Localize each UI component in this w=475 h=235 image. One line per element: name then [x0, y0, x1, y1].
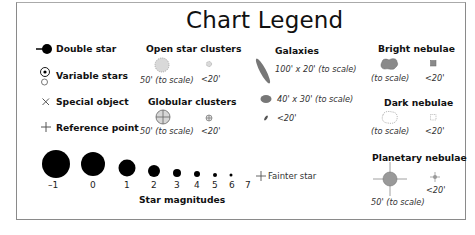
open-cluster-small-icon	[205, 60, 213, 68]
galaxy-medium-icon	[259, 94, 273, 104]
planetary-nebula-small-label: <20'	[426, 185, 446, 195]
planetary-nebula-scale-label: 50' (to scale)	[371, 197, 425, 207]
globular-cluster-scale-label: 50' (to scale)	[140, 126, 194, 136]
bright-nebula-small-icon	[430, 60, 437, 67]
globular-cluster-large-icon	[155, 109, 171, 125]
magnitude-label: 0	[90, 180, 96, 190]
magnitude-label: –1	[48, 180, 58, 190]
bright-nebula-large-icon	[380, 57, 400, 71]
double-star-label: Double star	[56, 43, 116, 54]
variable-stars-label: Variable stars	[56, 70, 128, 81]
planetary-nebula-large-icon	[373, 162, 407, 196]
dark-nebulae-heading: Dark nebulae	[384, 97, 453, 108]
magnitude-label: 3	[174, 180, 180, 190]
open-cluster-small-label: <20'	[201, 74, 221, 84]
magnitude-label: 7	[245, 180, 251, 190]
magnitude-dots	[40, 148, 240, 180]
magnitude-dot-icon	[42, 150, 70, 178]
magnitudes-heading: Star magnitudes	[139, 194, 225, 205]
magnitude-dot-icon	[148, 165, 160, 177]
globular-cluster-small-icon	[205, 114, 213, 122]
magnitude-labels: –1 0 1 2 3 4 5 6 7	[42, 180, 272, 192]
magnitude-label: 5	[212, 180, 218, 190]
galaxy-small-label: <20'	[277, 113, 297, 123]
magnitude-dot-icon	[173, 169, 181, 177]
magnitude-label: 2	[151, 180, 157, 190]
magnitude-label: 1	[124, 180, 130, 190]
page-title: Chart Legend	[186, 7, 343, 33]
special-object-label: Special object	[56, 96, 129, 107]
magnitude-dot-icon	[194, 171, 200, 177]
galaxies-heading: Galaxies	[275, 45, 319, 56]
open-clusters-heading: Open star clusters	[146, 43, 241, 54]
galaxy-small-icon	[262, 114, 270, 122]
magnitude-label: 4	[194, 180, 200, 190]
magnitude-dot-icon	[213, 173, 217, 177]
double-star-icon	[36, 42, 56, 56]
bright-nebula-scale-label: (to scale)	[371, 73, 409, 83]
galaxy-large-icon	[254, 56, 272, 86]
special-object-icon	[42, 98, 50, 106]
variable-star-icon	[38, 67, 52, 89]
open-cluster-scale-label: 50' (to scale)	[140, 75, 194, 85]
dark-nebula-large-icon	[380, 110, 400, 126]
globular-clusters-heading: Globular clusters	[148, 96, 236, 107]
bright-nebulae-heading: Bright nebulae	[378, 43, 455, 54]
bright-nebula-small-label: <20'	[425, 73, 445, 83]
fainter-star-label: Fainter star	[268, 171, 316, 181]
magnitude-dot-icon	[119, 160, 136, 177]
reference-point-icon	[41, 122, 51, 132]
open-cluster-large-icon	[154, 57, 170, 73]
galaxy-large-label: 100' x 20' (to scale)	[275, 64, 357, 74]
globular-cluster-small-label: <20'	[201, 126, 221, 136]
dark-nebula-scale-label: (to scale)	[371, 126, 409, 136]
dark-nebula-small-label: <20'	[425, 126, 445, 136]
magnitude-dot-icon	[81, 152, 105, 176]
dark-nebula-small-icon	[430, 114, 437, 121]
magnitude-dot-icon	[230, 174, 233, 177]
fainter-star-icon	[256, 171, 266, 181]
galaxy-medium-label: 40' x 30' (to scale)	[277, 94, 353, 104]
reference-point-label: Reference point	[56, 122, 139, 133]
planetary-nebula-small-icon	[430, 172, 440, 182]
magnitude-label: 6	[229, 180, 235, 190]
